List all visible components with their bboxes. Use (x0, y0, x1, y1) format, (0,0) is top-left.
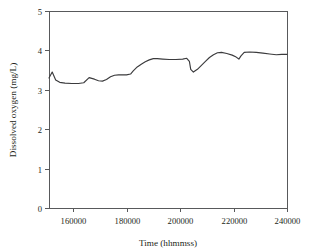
chart-ticks (45, 12, 288, 213)
x-tick-label: 240000 (275, 216, 301, 226)
x-axis-title: Time (hhmmss) (139, 238, 197, 248)
y-tick-label: 4 (38, 46, 43, 56)
y-axis-title: Dissolved oxygen (mg/L) (8, 63, 18, 157)
y-tick-label: 3 (38, 86, 42, 96)
chart-series (49, 52, 287, 84)
y-tick-label: 0 (38, 204, 42, 214)
chart-axes (49, 11, 287, 208)
y-tick-label: 2 (38, 125, 42, 135)
y-tick-label: 1 (38, 165, 42, 175)
chart-figure: 012345160000180000200000220000240000 Tim… (0, 0, 317, 251)
data-series-line (49, 52, 287, 84)
line-chart: 012345160000180000200000220000240000 Tim… (0, 0, 317, 251)
x-tick-label: 160000 (61, 216, 87, 226)
x-tick-label: 220000 (222, 216, 248, 226)
y-tick-label: 5 (38, 7, 42, 17)
chart-tick-labels: 012345160000180000200000220000240000 (38, 7, 301, 226)
x-tick-label: 180000 (115, 216, 141, 226)
x-tick-label: 200000 (168, 216, 194, 226)
